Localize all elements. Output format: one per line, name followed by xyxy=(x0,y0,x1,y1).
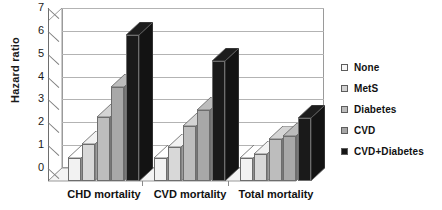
legend-label: CVD xyxy=(354,125,375,136)
bar-front xyxy=(126,35,139,181)
legend-item[interactable]: Diabetes xyxy=(341,99,441,120)
bar-front xyxy=(197,110,210,181)
bar xyxy=(212,48,239,181)
bar-front xyxy=(97,117,110,181)
hazard-ratio-bar-chart: Hazard ratio 01234567 CHD mortalityCVD m… xyxy=(0,0,442,210)
legend-label: CVD+Diabetes xyxy=(354,146,424,157)
bar-front xyxy=(240,158,253,181)
legend: NoneMetSDiabetesCVDCVD+Diabetes xyxy=(341,57,441,162)
bar xyxy=(298,105,325,181)
bar-front xyxy=(283,136,296,181)
legend-item[interactable]: None xyxy=(341,57,441,78)
bar-front xyxy=(68,158,81,181)
bar-front xyxy=(298,118,311,181)
x-axis-tick xyxy=(228,181,229,186)
bar-front xyxy=(111,87,124,181)
legend-label: MetS xyxy=(354,83,378,94)
x-axis-category-label: Total mortality xyxy=(216,188,336,200)
x-axis-tick xyxy=(142,181,143,186)
legend-item[interactable]: MetS xyxy=(341,78,441,99)
legend-swatch xyxy=(341,85,348,92)
legend-label: None xyxy=(354,62,379,73)
bar-front xyxy=(154,158,167,181)
bar xyxy=(126,22,153,181)
legend-swatch xyxy=(341,64,348,71)
legend-swatch xyxy=(341,106,348,113)
legend-label: Diabetes xyxy=(354,104,397,115)
bar-front xyxy=(168,147,181,181)
legend-swatch xyxy=(341,148,348,155)
bar-front xyxy=(82,144,95,181)
bar-front xyxy=(254,154,267,181)
bar-front xyxy=(269,139,282,181)
bar-front xyxy=(183,126,196,181)
legend-swatch xyxy=(341,127,348,134)
legend-item[interactable]: CVD+Diabetes xyxy=(341,141,441,162)
bar-front xyxy=(212,61,225,181)
legend-item[interactable]: CVD xyxy=(341,120,441,141)
